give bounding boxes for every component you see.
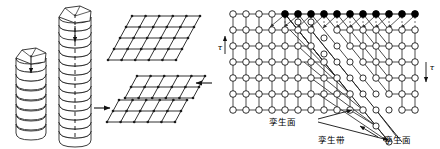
twin-band-label: 孪生带: [318, 135, 345, 145]
twin-plane-right-label: 孪生面: [384, 135, 411, 145]
tall-stack: [59, 6, 91, 147]
tau-left-symbol: τ: [218, 43, 223, 52]
figure-root: τ τ 孪生面 孪生带 孪生面: [0, 0, 440, 149]
tau-right-symbol: τ: [430, 63, 435, 72]
twinning-diagram-svg: τ τ 孪生面 孪生带 孪生面: [0, 0, 440, 149]
twin-plane-left-label: 孪生面: [269, 117, 296, 127]
